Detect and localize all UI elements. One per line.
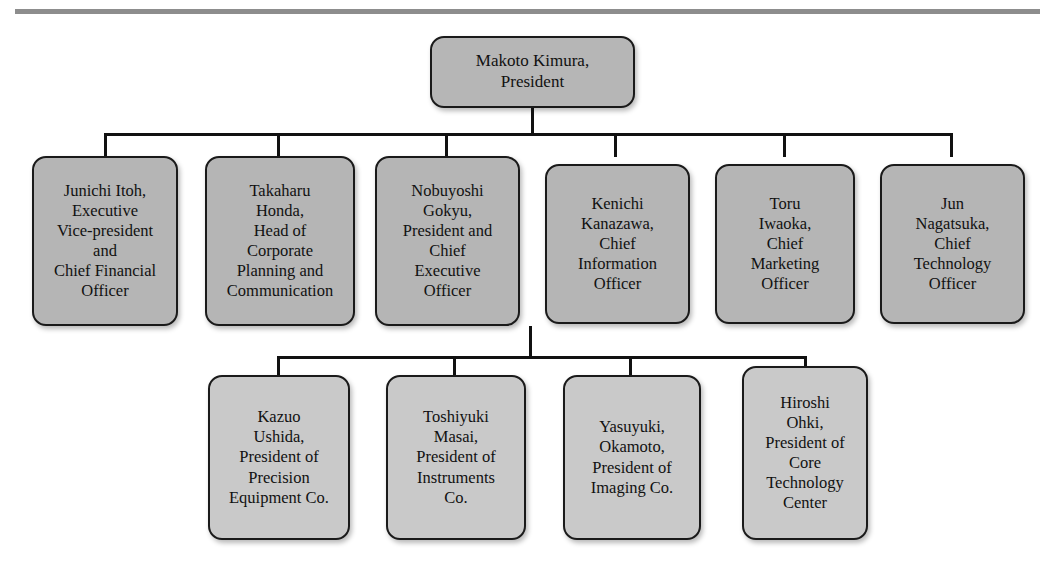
connector-drop-exec-4 — [614, 133, 617, 157]
header-rule — [15, 9, 1040, 14]
org-node-executive-3[interactable]: Nobuyoshi Gokyu, President and Chief Exe… — [375, 156, 520, 326]
connector-drop-unit-1 — [277, 356, 280, 376]
org-node-executive-2[interactable]: Takaharu Honda, Head of Corporate Planni… — [205, 156, 355, 326]
org-node-executive-1[interactable]: Junichi Itoh, Executive Vice-president a… — [32, 156, 178, 326]
connector-drop-exec-2 — [277, 133, 280, 157]
connector-gokyu-stem — [529, 326, 532, 358]
org-node-business-unit-2[interactable]: Toshiyuki Masai, President of Instrument… — [386, 375, 526, 540]
org-node-business-unit-1[interactable]: Kazuo Ushida, President of Precision Equ… — [208, 375, 350, 540]
connector-drop-exec-3 — [445, 133, 448, 157]
org-node-executive-6[interactable]: Jun Nagatsuka, Chief Technology Officer — [880, 164, 1025, 324]
connector-drop-exec-1 — [104, 133, 107, 157]
connector-level1-bus — [104, 133, 953, 136]
connector-drop-unit-2 — [453, 356, 456, 376]
org-node-business-unit-4[interactable]: Hiroshi Ohki, President of Core Technolo… — [742, 366, 868, 540]
org-node-executive-4[interactable]: Kenichi Kanazawa, Chief Information Offi… — [545, 164, 690, 324]
connector-root-stem — [531, 108, 534, 136]
connector-level2-bus — [277, 356, 807, 359]
org-node-business-unit-3[interactable]: Yasuyuki, Okamoto, President of Imaging … — [563, 375, 701, 540]
connector-drop-exec-5 — [783, 133, 786, 157]
org-node-president[interactable]: Makoto Kimura, President — [430, 36, 635, 108]
connector-drop-exec-6 — [950, 133, 953, 157]
connector-drop-unit-3 — [629, 356, 632, 376]
org-node-executive-5[interactable]: Toru Iwaoka, Chief Marketing Officer — [715, 164, 855, 324]
org-chart-canvas: Makoto Kimura, President Junichi Itoh, E… — [0, 0, 1055, 582]
